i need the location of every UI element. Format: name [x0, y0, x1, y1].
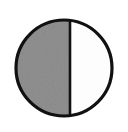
figure-canvas: [0, 0, 128, 132]
half-shaded-circle-graphic: [0, 0, 128, 132]
